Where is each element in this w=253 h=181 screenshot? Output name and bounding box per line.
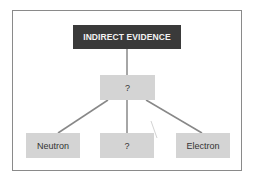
edge-middle-to-electron [146, 100, 202, 133]
root-label: INDIRECT EVIDENCE [83, 32, 171, 42]
edge-middle-to-neutron [58, 100, 108, 133]
child-label: Electron [186, 141, 219, 151]
middle-label: ? [125, 83, 130, 93]
child-label: ? [124, 141, 129, 151]
child-node-neutron: Neutron [26, 133, 80, 158]
child-label: Neutron [37, 141, 69, 151]
root-node: INDIRECT EVIDENCE [73, 25, 181, 49]
child-node-unknown: ? [100, 133, 154, 158]
child-node-electron: Electron [176, 133, 230, 158]
middle-node: ? [100, 75, 155, 100]
